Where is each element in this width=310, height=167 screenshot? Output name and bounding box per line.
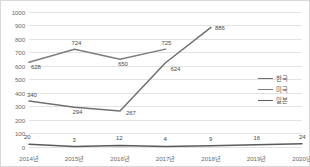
line-chart: 10009008007006005004003002001000 2014년20… — [0, 0, 310, 167]
legend-line-icon-1 — [258, 89, 273, 90]
x-tick-label: 2020년 — [284, 155, 310, 163]
legend-label-1: 미국 — [276, 85, 288, 94]
data-label: 9 — [209, 136, 212, 143]
legend-line-icon-0 — [258, 78, 273, 79]
series-line-2 — [29, 144, 302, 147]
legend-item-2[interactable]: 일본 — [258, 95, 304, 106]
data-label: 628 — [31, 64, 41, 71]
data-label: 886 — [215, 25, 225, 32]
series-line-0 — [29, 27, 211, 111]
y-tick-label: 300 — [3, 103, 25, 110]
y-tick-label: 500 — [3, 76, 25, 83]
y-tick-label: 800 — [3, 36, 25, 43]
data-label: 340 — [27, 92, 37, 99]
legend-label-2: 일본 — [276, 96, 288, 105]
data-label: 267 — [126, 110, 136, 117]
y-tick-label: 400 — [3, 90, 25, 97]
x-tick-label: 2018년 — [193, 155, 229, 163]
legend-line-icon-2 — [258, 100, 273, 101]
data-label: 20 — [24, 134, 30, 141]
y-tick-label: 100 — [3, 130, 25, 137]
y-tick-label: 600 — [3, 63, 25, 70]
legend-label-0: 한국 — [276, 74, 288, 83]
y-tick-label: 900 — [3, 22, 25, 29]
x-tick-label: 2019년 — [239, 155, 275, 163]
series-line-1 — [29, 49, 166, 62]
y-tick-label: 200 — [3, 117, 25, 124]
x-tick-label: 2015년 — [57, 155, 93, 163]
y-tick-label: 700 — [3, 49, 25, 56]
data-label: 294 — [73, 109, 83, 116]
data-label: 724 — [72, 40, 82, 47]
x-tick-label: 2017년 — [148, 155, 184, 163]
legend-item-0[interactable]: 한국 — [258, 73, 304, 84]
data-label: 725 — [162, 40, 172, 47]
legend-item-1[interactable]: 미국 — [258, 84, 304, 95]
data-label: 4 — [164, 136, 167, 143]
data-label: 24 — [299, 134, 305, 141]
data-label: 16 — [254, 135, 260, 142]
y-tick-label: 0 — [3, 144, 25, 151]
data-label: 12 — [116, 135, 122, 142]
data-label: 650 — [118, 61, 128, 68]
data-label: 3 — [73, 137, 76, 144]
x-tick-label: 2016년 — [102, 155, 138, 163]
legend: 한국 미국 일본 — [258, 73, 304, 106]
x-tick-label: 2014년 — [11, 155, 47, 163]
y-tick-label: 1000 — [3, 9, 25, 16]
data-label: 624 — [171, 66, 181, 73]
